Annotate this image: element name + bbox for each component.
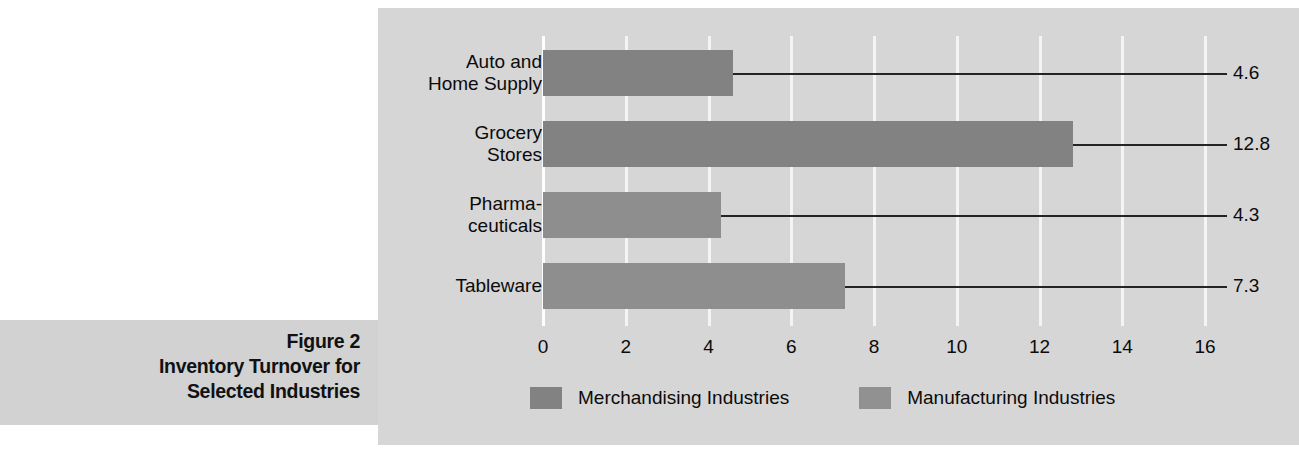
figure-number: Figure 2 bbox=[0, 329, 360, 354]
x-tick-label: 0 bbox=[538, 336, 549, 358]
category-label: GroceryStores bbox=[312, 122, 542, 166]
category-label: Tableware bbox=[312, 275, 542, 297]
x-tick-label: 8 bbox=[869, 336, 880, 358]
figure-title-line-1: Inventory Turnover for bbox=[0, 354, 360, 379]
category-label: Auto andHome Supply bbox=[312, 51, 542, 95]
bar-row: GroceryStores12.8 bbox=[378, 113, 1299, 175]
bar-row: Auto andHome Supply4.6 bbox=[378, 42, 1299, 104]
value-label: 4.6 bbox=[1233, 62, 1259, 84]
value-leader-line bbox=[845, 286, 1227, 288]
legend-label: Merchandising Industries bbox=[578, 387, 789, 409]
bar-row: Tableware7.3 bbox=[378, 255, 1299, 317]
value-label: 12.8 bbox=[1233, 133, 1270, 155]
value-label: 7.3 bbox=[1233, 275, 1259, 297]
chart-panel: Auto andHome Supply4.6GroceryStores12.8P… bbox=[378, 8, 1299, 445]
value-leader-line bbox=[1073, 144, 1227, 146]
x-tick-label: 14 bbox=[1112, 336, 1133, 358]
category-label: Pharma-ceuticals bbox=[312, 193, 542, 237]
value-leader-line bbox=[721, 215, 1227, 217]
bar bbox=[543, 121, 1073, 167]
x-tick-label: 12 bbox=[1029, 336, 1050, 358]
legend-label: Manufacturing Industries bbox=[907, 387, 1115, 409]
figure-title-line-2: Selected Industries bbox=[0, 379, 360, 404]
x-tick-label: 2 bbox=[620, 336, 631, 358]
x-tick-label: 16 bbox=[1194, 336, 1215, 358]
x-axis: 0246810121416 bbox=[378, 326, 1299, 370]
plot-area: Auto andHome Supply4.6GroceryStores12.8P… bbox=[378, 8, 1299, 326]
x-tick-label: 4 bbox=[703, 336, 714, 358]
legend-swatch-icon bbox=[530, 387, 562, 409]
legend-item[interactable]: Merchandising Industries bbox=[530, 387, 789, 409]
chart-legend: Merchandising IndustriesManufacturing In… bbox=[378, 378, 1299, 418]
value-leader-line bbox=[733, 73, 1227, 75]
legend-swatch-icon bbox=[859, 387, 891, 409]
x-tick-label: 10 bbox=[946, 336, 967, 358]
bar bbox=[543, 263, 845, 309]
bar bbox=[543, 192, 721, 238]
bar-row: Pharma-ceuticals4.3 bbox=[378, 184, 1299, 246]
x-tick-label: 6 bbox=[786, 336, 797, 358]
legend-item[interactable]: Manufacturing Industries bbox=[859, 387, 1115, 409]
figure-caption-band: Figure 2 Inventory Turnover for Selected… bbox=[0, 320, 378, 425]
bar bbox=[543, 50, 733, 96]
value-label: 4.3 bbox=[1233, 204, 1259, 226]
